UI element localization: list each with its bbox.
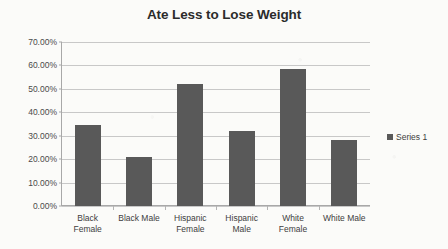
bar-slot bbox=[319, 42, 370, 206]
bar[interactable] bbox=[177, 84, 203, 206]
y-tick-label: 10.00% bbox=[28, 178, 57, 188]
bar-chart: Ate Less to Lose Weight 70.00%60.00%50.0… bbox=[0, 0, 448, 249]
category-separator bbox=[113, 206, 114, 210]
category-separator bbox=[165, 206, 166, 210]
bar[interactable] bbox=[229, 131, 255, 206]
x-axis-label: HispanicMale bbox=[225, 213, 258, 234]
bar-slot bbox=[267, 42, 318, 206]
y-tick-label: 50.00% bbox=[28, 84, 57, 94]
chart-legend: Series 1 bbox=[387, 132, 427, 142]
bar-slot bbox=[62, 42, 113, 206]
y-tick-label: 20.00% bbox=[28, 154, 57, 164]
bar-slot bbox=[165, 42, 216, 206]
bar[interactable] bbox=[280, 69, 306, 206]
y-tick-label: 30.00% bbox=[28, 131, 57, 141]
x-axis-label: WhiteFemale bbox=[279, 213, 307, 234]
x-axis-label: White Male bbox=[323, 213, 366, 224]
plot-area: 70.00%60.00%50.00%40.00%30.00%20.00%10.0… bbox=[62, 42, 370, 206]
bar[interactable] bbox=[75, 125, 101, 206]
y-tick-label: 70.00% bbox=[28, 37, 57, 47]
x-axis-label: HispanicFemale bbox=[174, 213, 207, 234]
category-separator bbox=[267, 206, 268, 210]
legend-swatch-series-1 bbox=[387, 134, 393, 140]
bar[interactable] bbox=[126, 157, 152, 206]
legend-label-series-1: Series 1 bbox=[396, 132, 427, 142]
category-separator bbox=[216, 206, 217, 210]
bar-slot bbox=[216, 42, 267, 206]
category-separator bbox=[319, 206, 320, 210]
x-axis-label: Black Male bbox=[118, 213, 160, 224]
chart-title: Ate Less to Lose Weight bbox=[0, 7, 448, 22]
bar[interactable] bbox=[331, 140, 357, 206]
y-tick-label: 40.00% bbox=[28, 107, 57, 117]
y-tick-label: 0.00% bbox=[33, 201, 57, 211]
y-tick-label: 60.00% bbox=[28, 60, 57, 70]
bar-slot bbox=[113, 42, 164, 206]
x-axis-label: BlackFemale bbox=[73, 213, 101, 234]
